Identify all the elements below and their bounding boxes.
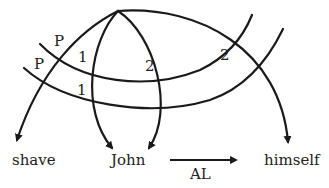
- node-shave: shave: [12, 153, 56, 168]
- node-john: John: [111, 153, 145, 168]
- label-two-left: 2: [145, 59, 155, 74]
- label-p-upper: P: [54, 34, 64, 49]
- relation-label-al: AL: [190, 167, 211, 182]
- label-one-lower: 1: [77, 83, 87, 98]
- node-himself: himself: [264, 153, 320, 168]
- arc-to-john-right: [118, 11, 161, 148]
- label-two-right: 2: [220, 48, 230, 63]
- label-p-lower: P: [34, 57, 44, 72]
- arc-to-himself: [118, 10, 288, 142]
- label-one-upper: 1: [78, 50, 88, 65]
- relational-network-diagram: P P 1 1 2 2 shave John himself AL: [0, 0, 329, 188]
